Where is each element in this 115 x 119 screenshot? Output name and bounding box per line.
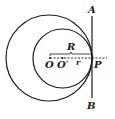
label-r-small: r: [76, 57, 81, 67]
label-a: A: [87, 4, 96, 15]
label-r-big: R: [66, 41, 75, 52]
tangent-circles-diagram: A B P O O′ R r: [0, 0, 115, 119]
label-p: P: [93, 59, 102, 70]
label-o-prime: O′: [57, 59, 69, 70]
label-o: O: [45, 59, 54, 70]
label-b: B: [86, 100, 95, 111]
radius-brace-R: [50, 52, 92, 56]
